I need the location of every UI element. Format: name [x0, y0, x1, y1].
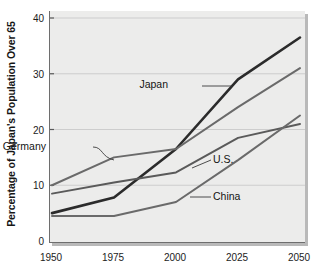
y-axis-ticks: 010203040 [18, 0, 44, 278]
plot-area [49, 11, 305, 243]
y-tick-label: 20 [22, 124, 44, 135]
y-tick-label: 30 [22, 68, 44, 79]
series-line-germany [52, 68, 300, 185]
x-tick-label: 1975 [90, 252, 136, 263]
x-tick-label: 2000 [152, 252, 198, 263]
y-tick-label: 10 [22, 180, 44, 191]
x-tick-label: 1950 [28, 252, 74, 263]
y-tick-label: 40 [22, 13, 44, 24]
series-line-china [52, 116, 300, 216]
y-tick-label: 0 [22, 236, 44, 247]
chart-figure: Percentage of Japan's Population Over 65… [0, 0, 312, 278]
x-tick-label: 2025 [214, 252, 260, 263]
x-axis-ticks: 19501975200020252050 [0, 252, 312, 272]
chart-svg [50, 11, 305, 243]
series-line-us [52, 124, 300, 194]
y-axis-title-text: Percentage of Japan's Population Over 65 [5, 21, 17, 227]
plot-canvas [50, 11, 305, 242]
x-tick-label: 2050 [276, 252, 312, 263]
